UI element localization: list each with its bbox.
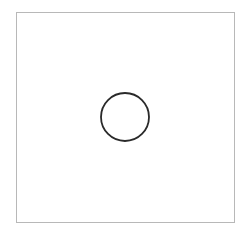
shapes-layer	[0, 0, 243, 235]
diagram-canvas	[0, 0, 243, 235]
circle-shape	[101, 93, 149, 141]
